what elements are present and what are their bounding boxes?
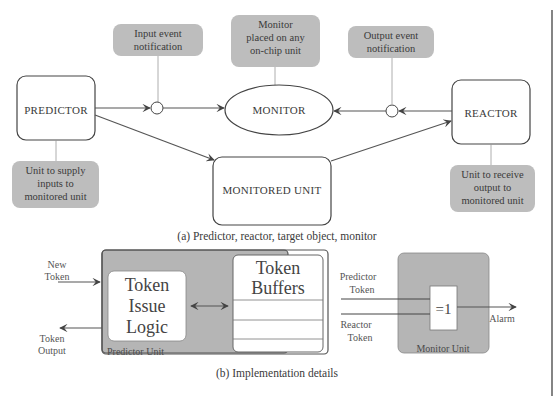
svg-text:Unit to supply: Unit to supply (25, 165, 86, 176)
svg-text:Monitor: Monitor (258, 19, 293, 30)
caption-b: (b) Implementation details (216, 367, 339, 380)
predictor-token-label: Predictor (340, 271, 377, 282)
svg-text:Logic: Logic (126, 317, 168, 337)
svg-text:Unit to receive: Unit to receive (461, 169, 524, 180)
svg-text:Token: Token (350, 284, 375, 295)
token-buffers: Token Buffers (233, 255, 323, 352)
monitored-unit-node: MONITORED UNIT (213, 157, 331, 225)
note-input-event: Input event notification (113, 24, 203, 56)
note-predictor-desc: Unit to supply inputs to monitored unit (12, 161, 99, 208)
svg-text:Predictor Unit: Predictor Unit (107, 346, 164, 357)
svg-text:Issue: Issue (129, 296, 166, 316)
svg-text:on-chip unit: on-chip unit (250, 45, 301, 56)
svg-text:monitored unit: monitored unit (24, 191, 86, 202)
predictor-node: PREDICTOR (17, 76, 95, 140)
svg-text:=1: =1 (436, 301, 452, 317)
svg-text:Token: Token (256, 258, 301, 278)
svg-text:Token: Token (125, 275, 170, 295)
monitor-node: MONITOR (225, 85, 333, 135)
svg-text:MONITOR: MONITOR (252, 104, 306, 116)
note-reactor-desc: Unit to receive output to monitored unit (450, 165, 535, 212)
predictor-unit: Token Issue Logic Token Buffers Predicto… (102, 250, 323, 357)
svg-text:notification: notification (134, 41, 183, 52)
arrow-monitored-to-reactor (331, 121, 451, 161)
svg-text:placed on any: placed on any (246, 32, 305, 43)
svg-text:Output event: Output event (364, 30, 419, 41)
monitor-unit: =1 Monitor Unit (398, 253, 489, 354)
figure-canvas: Input event notification Monitor placed … (0, 0, 554, 396)
svg-text:inputs to: inputs to (37, 178, 73, 189)
svg-text:Output: Output (38, 345, 66, 356)
new-token-label: New (48, 259, 68, 270)
reactor-node: REACTOR (452, 80, 530, 144)
note-output-event: Output event notification (348, 26, 434, 58)
input-event-point (151, 102, 163, 114)
svg-text:output to: output to (474, 182, 512, 193)
svg-text:MONITORED UNIT: MONITORED UNIT (222, 184, 321, 196)
output-event-point (386, 105, 398, 117)
arrow-predictor-to-monitored (95, 115, 214, 160)
svg-text:PREDICTOR: PREDICTOR (24, 104, 88, 116)
svg-text:Token: Token (45, 271, 70, 282)
svg-text:Monitor Unit: Monitor Unit (416, 343, 469, 354)
reactor-token-label: Reactor (340, 319, 372, 330)
alarm-label: Alarm (489, 313, 515, 324)
note-monitor-placed: Monitor placed on any on-chip unit (231, 15, 320, 67)
svg-text:monitored unit: monitored unit (461, 195, 523, 206)
svg-text:Input event: Input event (134, 28, 182, 39)
caption-a: (a) Predictor, reactor, target object, m… (177, 230, 377, 243)
svg-text:Token: Token (348, 332, 373, 343)
svg-text:Buffers: Buffers (251, 278, 305, 298)
svg-text:notification: notification (367, 43, 416, 54)
token-output-label: Token (40, 333, 65, 344)
svg-text:REACTOR: REACTOR (464, 107, 518, 119)
